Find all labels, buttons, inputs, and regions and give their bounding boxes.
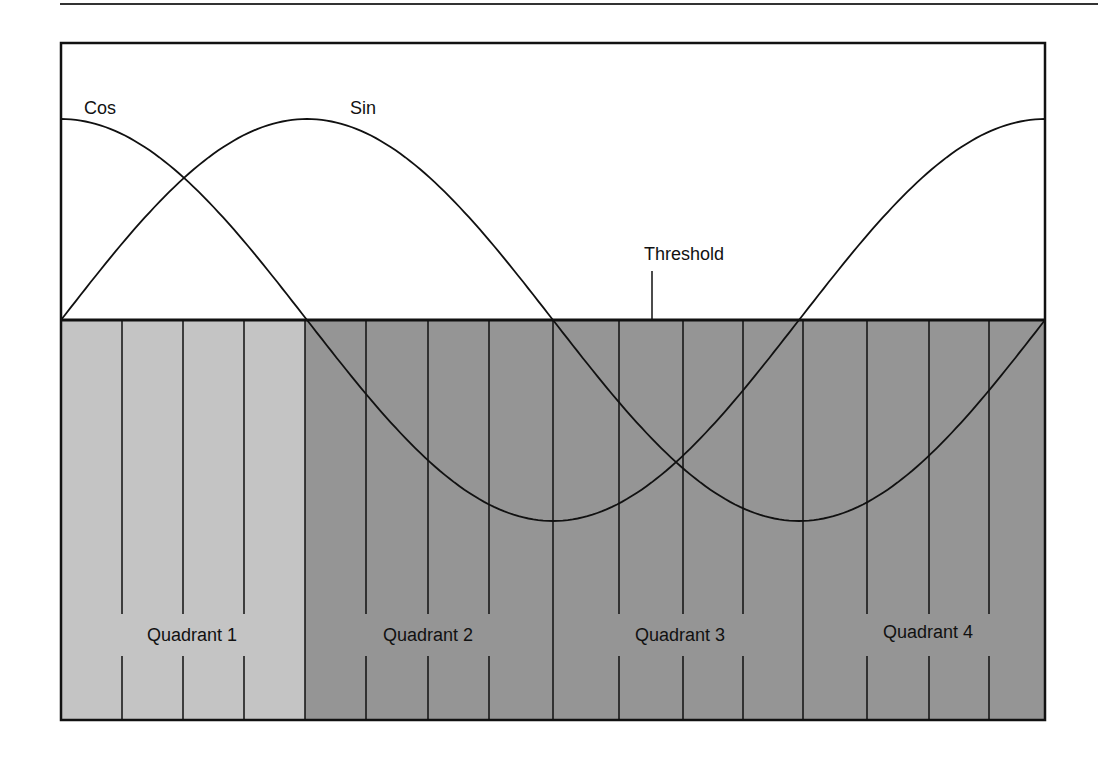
quadrant-2-label: Quadrant 2 [383, 625, 473, 645]
quadrant-3-label: Quadrant 3 [635, 625, 725, 645]
quadrant-1-label: Quadrant 1 [147, 625, 237, 645]
threshold-label: Threshold [644, 244, 724, 264]
quadrant-2-region [305, 320, 553, 720]
quadrant-4-label: Quadrant 4 [883, 622, 973, 642]
quadrant-4-region [803, 320, 1045, 720]
sin-label: Sin [350, 98, 376, 118]
quadrant-3-region [553, 320, 803, 720]
upper-region [61, 43, 1045, 320]
quadrant-sine-cosine-diagram: Cos Sin Threshold Quadrant 1 Quadrant 2 … [0, 0, 1098, 765]
cos-label: Cos [84, 98, 116, 118]
